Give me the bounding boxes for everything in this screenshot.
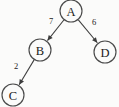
edge-a-b: 7 (47, 16, 63, 41)
node-a[interactable]: A (60, 0, 82, 22)
edge-b-c-weight-label: 2 (14, 61, 18, 71)
node-c-label: C (9, 89, 17, 103)
node-layer: ABCD (2, 0, 116, 106)
edge-a-d-weight-label: 6 (92, 17, 96, 27)
graph-diagram: 762ABCD (0, 0, 119, 107)
node-a-label: A (66, 5, 75, 19)
edge-b-c: 2 (14, 60, 34, 85)
edge-a-d: 6 (78, 17, 97, 43)
node-d[interactable]: D (94, 41, 116, 63)
node-b[interactable]: B (29, 39, 51, 61)
node-b-label: B (36, 44, 44, 58)
node-c[interactable]: C (2, 84, 24, 106)
graph-canvas-svg: 762ABCD (0, 0, 119, 107)
node-d-label: D (100, 46, 109, 60)
edge-layer: 762 (14, 16, 97, 85)
edge-a-b-weight-label: 7 (49, 16, 53, 26)
